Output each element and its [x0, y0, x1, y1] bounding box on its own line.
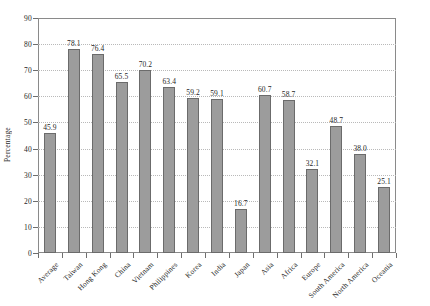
bar-value-label: 38.0 — [345, 144, 375, 153]
x-axis-tick-mark — [38, 253, 39, 258]
bar-value-label: 45.9 — [35, 123, 65, 132]
bar-value-label: 32.1 — [297, 159, 327, 168]
bar — [235, 209, 247, 253]
x-axis-tick-mark — [301, 253, 302, 258]
x-axis-category-label: Asia — [258, 260, 275, 277]
x-axis-category-label: Average — [35, 260, 60, 285]
x-axis-category-label: India — [209, 260, 227, 278]
y-axis-tick-label: 80 — [10, 40, 32, 49]
y-axis-tick-label: 0 — [10, 249, 32, 258]
bar — [139, 70, 151, 253]
x-axis-tick-mark — [205, 253, 206, 258]
bar-value-label: 63.4 — [154, 77, 184, 86]
x-axis-category-label: Oceania — [370, 260, 395, 285]
x-axis-tick-mark — [181, 253, 182, 258]
y-axis-tick-label: 90 — [10, 14, 32, 23]
x-axis-tick-mark — [253, 253, 254, 258]
y-axis-tick-label: 70 — [10, 66, 32, 75]
bar-value-label: 25.1 — [369, 177, 399, 186]
x-axis-tick-mark — [133, 253, 134, 258]
x-axis-category-label: Korea — [183, 260, 203, 280]
x-axis-tick-mark — [372, 253, 373, 258]
bar — [283, 100, 295, 253]
bar — [330, 126, 342, 253]
x-axis-tick-mark — [229, 253, 230, 258]
x-axis-category-label: Japan — [232, 260, 251, 279]
bar — [116, 82, 128, 253]
bar-value-label: 58.7 — [274, 90, 304, 99]
y-axis-tick-label: 40 — [10, 144, 32, 153]
x-axis-tick-mark — [396, 253, 397, 258]
x-axis-tick-mark — [324, 253, 325, 258]
y-axis-tick-label: 60 — [10, 92, 32, 101]
bar — [163, 87, 175, 253]
x-axis-category-label: Africa — [278, 260, 299, 281]
bar — [378, 187, 390, 253]
bar-value-label: 65.5 — [107, 72, 137, 81]
bar-value-label: 48.7 — [321, 116, 351, 125]
bar — [259, 95, 271, 253]
bar — [306, 169, 318, 253]
x-axis-tick-mark — [157, 253, 158, 258]
x-axis-tick-mark — [86, 253, 87, 258]
bar-value-label: 76.4 — [83, 44, 113, 53]
y-axis-tick-label: 50 — [10, 118, 32, 127]
bar-value-label: 16.7 — [226, 199, 256, 208]
x-axis-tick-mark — [277, 253, 278, 258]
x-axis-tick-mark — [110, 253, 111, 258]
bar — [354, 154, 366, 253]
x-axis-category-label: China — [112, 260, 132, 280]
bar-value-label: 59.1 — [202, 89, 232, 98]
bar — [44, 133, 56, 253]
bar — [211, 99, 223, 253]
bar-chart: Percentage 0102030405060708090 45.978.17… — [0, 0, 430, 306]
bar-value-label: 70.2 — [130, 60, 160, 69]
x-axis-tick-mark — [348, 253, 349, 258]
y-axis-tick-label: 30 — [10, 170, 32, 179]
bars-group — [38, 18, 396, 253]
bar — [187, 98, 199, 253]
x-axis-tick-mark — [62, 253, 63, 258]
bar — [92, 54, 104, 253]
y-axis-tick-label: 20 — [10, 196, 32, 205]
bar — [68, 49, 80, 253]
y-axis-tick-label: 10 — [10, 222, 32, 231]
